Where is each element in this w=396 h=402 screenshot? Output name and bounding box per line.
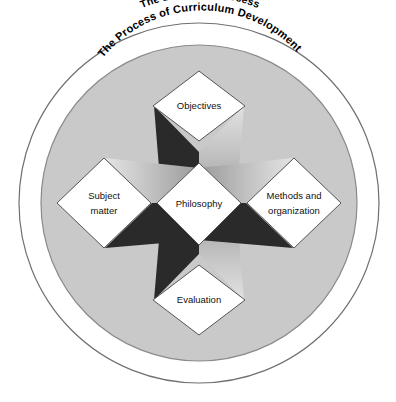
objectives-label: Objectives (177, 100, 222, 111)
curriculum-development-diagram: Objectives Subject matter Methods and or… (0, 0, 396, 402)
subject-matter-label-line2: matter (91, 205, 118, 216)
evaluation-label: Evaluation (177, 294, 221, 305)
subject-matter-label-line1: Subject (88, 190, 120, 201)
methods-label-line2: organization (268, 205, 320, 216)
philosophy-label: Philosophy (176, 198, 223, 209)
methods-label-line1: Methods and (267, 190, 322, 201)
diagram-root: Objectives Subject matter Methods and or… (0, 0, 396, 402)
